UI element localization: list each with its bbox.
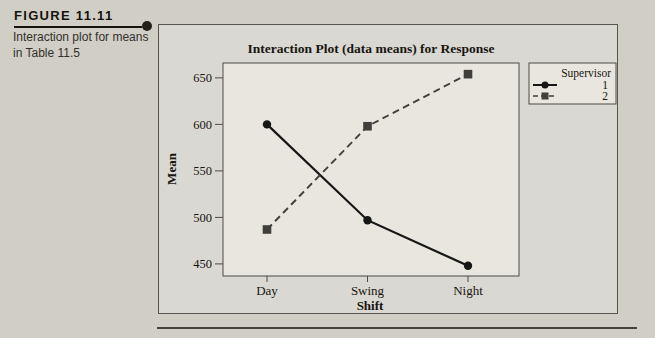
y-tick-label: 600 [193, 118, 212, 132]
plot-area [223, 63, 519, 276]
figure-caption-line1: Interaction plot for means [13, 30, 148, 44]
figure-caption-line2: in Table 11.5 [13, 46, 80, 60]
section-divider-rule [157, 327, 637, 329]
interaction-plot-chart: Interaction Plot (data means) for Respon… [159, 25, 617, 313]
textbook-page: FIGURE 11.11 Interaction plot for means … [0, 0, 655, 338]
data-point-square-icon [263, 225, 272, 234]
data-point-circle-icon [363, 216, 371, 224]
x-tick-label: Day [256, 283, 278, 298]
y-tick-label: 450 [193, 257, 212, 271]
x-tick-label: Night [453, 283, 483, 298]
y-tick-label: 650 [193, 71, 212, 85]
legend-entry-label: 2 [602, 90, 608, 102]
x-tick-label: Swing [351, 283, 385, 298]
figure-caption-heading: FIGURE 11.11 [14, 8, 142, 28]
data-point-circle-icon [464, 262, 472, 270]
legend-marker-square-icon [542, 93, 549, 100]
legend-marker-circle-icon [542, 82, 549, 89]
chart-title: Interaction Plot (data means) for Respon… [248, 41, 495, 56]
data-point-circle-icon [263, 120, 271, 128]
x-axis-title: Shift [357, 298, 384, 313]
data-point-square-icon [363, 122, 372, 131]
y-axis-title: Mean [164, 152, 179, 185]
figure-box: Interaction Plot (data means) for Respon… [158, 24, 618, 314]
y-tick-label: 500 [193, 211, 212, 225]
y-tick-label: 550 [193, 164, 212, 178]
data-point-square-icon [464, 70, 473, 79]
